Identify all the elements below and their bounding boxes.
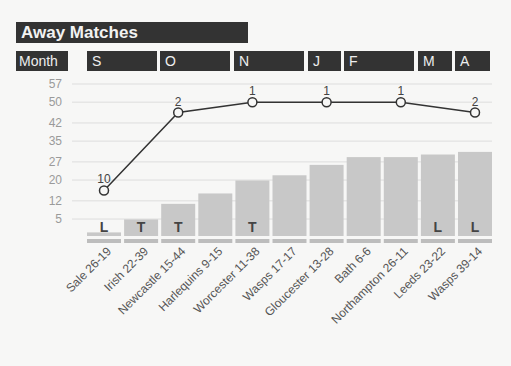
point-label: 10 [97,172,111,186]
result-marker: T [248,219,257,235]
y-tick-label: 35 [49,134,63,148]
line-point [471,108,480,117]
y-tick-label: 50 [49,95,63,109]
bar [198,193,232,236]
bar-base-strip [87,239,121,243]
bar-base-strip [384,239,418,243]
bar-base-strip [124,239,158,243]
x-axis-label: Harlequins 9-15 [156,244,226,314]
chart-area: 512202735425057LSale 26-19TIrish 22-39TN… [0,0,511,366]
bar-base-strip [198,239,232,243]
line-point [396,98,405,107]
y-tick-label: 5 [55,212,62,226]
point-label: 1 [397,84,404,98]
point-label: 2 [175,95,182,109]
bar [273,175,307,236]
bar-base-strip [235,239,269,243]
y-tick-label: 57 [49,77,63,91]
y-tick-label: 20 [49,173,63,187]
y-tick-label: 12 [49,194,63,208]
bar [310,165,344,236]
y-tick-label: 27 [49,155,63,169]
bar-base-strip [273,239,307,243]
x-axis-label: Newcastle 15-44 [115,244,188,317]
y-tick-label: 42 [49,116,63,130]
point-label: 1 [323,84,330,98]
bar [384,157,418,236]
bar [347,157,381,236]
line-point [100,186,109,195]
bar-base-strip [161,239,195,243]
bar-base-strip [347,239,381,243]
point-label: 2 [472,95,479,109]
result-marker: L [471,219,480,235]
result-marker: T [137,219,146,235]
bar-base-strip [310,239,344,243]
bar-base-strip [458,239,492,243]
result-marker: L [100,219,109,235]
x-axis-label: Worcester 11-38 [191,244,263,316]
x-axis-label: Gloucester 13-28 [262,244,337,319]
bar-base-strip [421,239,455,243]
line-point [174,108,183,117]
point-label: 1 [249,84,256,98]
result-marker: L [434,219,443,235]
line-point [322,98,331,107]
line-point [248,98,257,107]
result-marker: T [174,219,183,235]
